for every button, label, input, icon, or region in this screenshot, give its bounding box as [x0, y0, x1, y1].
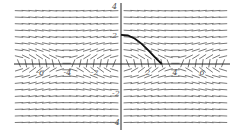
slope-segment	[83, 55, 90, 59]
slope-segment	[22, 68, 29, 72]
slope-segment	[32, 59, 33, 67]
slope-field-chart: -6-4-2246 42-2-4	[0, 0, 242, 133]
slope-segment	[124, 56, 132, 58]
slope-segment	[46, 59, 47, 67]
slope-segment	[219, 76, 227, 77]
slope-segment	[215, 59, 217, 67]
x-tick-label: 6	[200, 68, 205, 77]
slope-segment	[49, 55, 57, 59]
slope-segment	[76, 55, 84, 59]
slope-segment	[90, 54, 97, 59]
x-tick-label: -2	[91, 68, 99, 77]
slope-segment	[25, 59, 27, 67]
x-tick-label: 4	[171, 68, 177, 77]
slope-segment	[206, 55, 213, 59]
slope-segment	[145, 54, 152, 59]
slope-segment	[124, 76, 132, 77]
slope-segment	[219, 96, 227, 97]
slope-segment	[131, 68, 138, 72]
slope-segment	[152, 67, 159, 72]
solution-curve	[121, 35, 162, 64]
slope-segment	[154, 59, 155, 67]
slope-segment	[141, 59, 142, 67]
slope-segment	[138, 55, 145, 59]
x-tick-label: -4	[64, 68, 72, 77]
y-tick-label: -2	[112, 89, 120, 98]
slope-segment	[185, 55, 193, 59]
slope-segment	[15, 76, 23, 77]
slope-segment	[195, 59, 196, 67]
slope-segment	[219, 89, 227, 90]
slope-segment	[93, 59, 94, 67]
slope-segment	[158, 68, 165, 72]
slope-segment	[192, 55, 199, 59]
slope-segment	[199, 54, 206, 59]
slope-segment	[43, 55, 50, 59]
slope-segment	[202, 59, 203, 67]
slope-segment	[185, 68, 192, 72]
slope-segment	[15, 50, 23, 51]
slope-segment	[124, 69, 132, 72]
slope-segment	[100, 59, 101, 67]
slope-segment	[181, 59, 184, 67]
slope-segment	[97, 55, 104, 59]
y-tick-label: 2	[111, 31, 117, 40]
slope-segment	[219, 56, 227, 58]
slope-segment	[58, 59, 61, 67]
slope-segment	[148, 59, 149, 67]
x-tick-label: 2	[144, 68, 150, 77]
slope-segment	[221, 59, 224, 67]
slope-segment	[206, 67, 213, 72]
slope-segment	[29, 67, 36, 72]
slope-segment	[167, 59, 170, 67]
slope-segment	[188, 59, 190, 67]
slope-segment	[39, 59, 40, 67]
slope-segment	[79, 59, 81, 67]
slope-segment	[72, 59, 75, 67]
slope-segment	[192, 67, 199, 72]
slope-segment	[110, 56, 118, 58]
slope-segment	[52, 59, 54, 67]
slope-segment	[15, 69, 23, 72]
slope-segment	[212, 55, 220, 59]
x-tick-label: -6	[36, 68, 44, 77]
slope-segment	[22, 55, 30, 59]
slope-segment	[17, 59, 20, 67]
slope-segment	[209, 59, 210, 67]
slope-segment	[213, 68, 220, 72]
slope-segment	[86, 59, 87, 67]
slope-segment	[77, 68, 84, 72]
y-tick-label: 4	[111, 2, 117, 11]
slope-segment	[219, 37, 227, 38]
slope-segment	[134, 59, 136, 67]
slope-segment	[104, 55, 112, 59]
slope-segment	[138, 67, 145, 72]
slope-segment	[49, 68, 56, 72]
slope-segment	[29, 55, 36, 59]
slope-segment	[126, 59, 129, 67]
slope-segment	[84, 67, 91, 72]
slope-segment	[219, 50, 227, 51]
slope-segment	[104, 68, 111, 72]
slope-segment	[110, 69, 118, 72]
y-tick-label: -4	[112, 118, 120, 127]
slope-segment	[219, 69, 227, 72]
slope-segment	[110, 50, 118, 51]
slope-segment	[158, 55, 166, 59]
slope-segment	[124, 50, 132, 51]
slope-segment	[131, 55, 139, 59]
slope-segment	[15, 56, 23, 58]
slope-segment	[36, 54, 43, 59]
slope-segment	[107, 59, 109, 67]
slope-segment	[113, 59, 116, 67]
slope-segment	[110, 76, 118, 77]
